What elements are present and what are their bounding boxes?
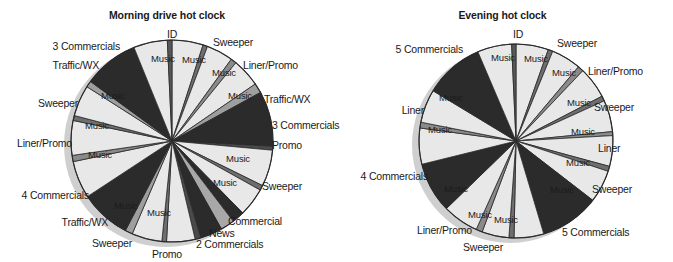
slice-inner-label: Music bbox=[228, 90, 252, 101]
slice-inner-label: Music bbox=[552, 67, 576, 78]
slice-inner-label: Music bbox=[468, 209, 492, 220]
slice-callout-label: Liner/Promo bbox=[588, 66, 643, 77]
slice-inner-label: Music bbox=[444, 183, 468, 194]
chart-evening-hot-clock: Evening hot clock MusicMusicMusicMusicMu… bbox=[340, 0, 673, 262]
chart-morning-drive-hot-clock: Morning drive hot clock MusicMusicMusicM… bbox=[0, 0, 340, 262]
slice-callout-label: ID bbox=[167, 29, 177, 40]
slice-callout-label: Sweeper bbox=[594, 102, 634, 113]
slice-inner-label: Music bbox=[85, 120, 109, 131]
slice-inner-label: Music bbox=[524, 53, 548, 64]
slice-callout-label: 3 Commercials bbox=[53, 41, 120, 52]
slice-inner-label: Music bbox=[226, 153, 250, 164]
slice-inner-label: Music bbox=[571, 126, 595, 137]
slice-callout-label: 5 Commercials bbox=[396, 44, 463, 55]
slice-callout-label: Liner/Promo bbox=[243, 60, 298, 71]
slice-callout-label: Sweeper bbox=[213, 37, 253, 48]
slice-callout-label: 4 Commercials bbox=[22, 190, 89, 201]
slice-callout-label: 2 Commercials bbox=[196, 239, 263, 250]
slice-callout-label: Traffic/WX bbox=[53, 60, 99, 71]
slice-inner-label: Music bbox=[567, 97, 591, 108]
slice-inner-label: Music bbox=[212, 67, 236, 78]
slice-callout-label: Sweeper bbox=[262, 181, 302, 192]
slice-callout-label: Sweeper bbox=[557, 38, 597, 49]
slice-callout-label: Liner/Promo bbox=[417, 225, 472, 236]
slice-callout-label: Promo bbox=[272, 140, 302, 151]
slice-callout-label: ID bbox=[513, 29, 523, 40]
slice-inner-label: Music bbox=[428, 124, 452, 135]
slice-callout-label: Liner/Promo bbox=[17, 138, 72, 149]
slice-inner-label: Music bbox=[151, 53, 175, 64]
slice-callout-label: Sweeper bbox=[38, 98, 78, 109]
slice-callout-label: Sweeper bbox=[92, 238, 132, 249]
slice-callout-label: 3 Commercials bbox=[272, 120, 339, 131]
slice-callout-label: Sweeper bbox=[592, 184, 632, 195]
slice-callout-label: 5 Commercials bbox=[562, 227, 629, 238]
slice-inner-label: Music bbox=[114, 200, 138, 211]
slice-callout-label: Commercial bbox=[228, 216, 282, 227]
slice-inner-label: Music bbox=[101, 90, 125, 101]
slice-inner-label: Music bbox=[491, 52, 515, 63]
slice-callout-label: Traffic/WX bbox=[62, 217, 108, 228]
slice-inner-label: Music bbox=[494, 214, 518, 225]
slice-callout-label: Liner bbox=[598, 143, 620, 154]
slice-callout-label: Sweeper bbox=[463, 242, 503, 253]
slice-callout-label: Promo bbox=[152, 249, 182, 260]
slice-inner-label: Music bbox=[213, 177, 237, 188]
slice-inner-label: Music bbox=[147, 207, 171, 218]
slice-callout-label: 4 Commercials bbox=[361, 171, 428, 182]
slice-inner-label: Music bbox=[88, 149, 112, 160]
slice-inner-label: Music bbox=[439, 92, 463, 103]
slice-callout-label: Traffic/WX bbox=[264, 94, 310, 105]
slice-callout-label: Liner bbox=[402, 105, 424, 116]
slice-inner-label: Music bbox=[550, 184, 574, 195]
slice-inner-label: Music bbox=[182, 54, 206, 65]
slice-inner-label: Music bbox=[566, 157, 590, 168]
pie-evening: MusicMusicMusicMusicMusicMusicMusicMusic… bbox=[340, 0, 673, 262]
